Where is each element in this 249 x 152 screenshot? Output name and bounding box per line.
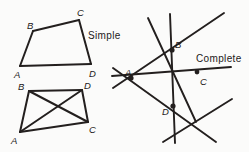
crossed-edge-dc <box>82 90 88 122</box>
complete-vertex-label-d: D <box>162 107 169 117</box>
simple-edge-bc <box>33 20 79 31</box>
crossed-vertex-label-d: D <box>84 81 91 91</box>
crossed-quadrilateral-shape <box>20 90 88 132</box>
complete-node-c <box>195 70 200 75</box>
complete-vertex-label-a: A <box>125 68 132 78</box>
simple-vertex-label-a: A <box>14 70 21 80</box>
crossed-vertex-label-a: A <box>11 136 18 146</box>
caption-simple: Simple <box>88 31 121 41</box>
simple-vertex-label-c: C <box>77 8 84 18</box>
geometry-figure: A B C D Simple A B C D A B C D Complete <box>0 0 249 152</box>
complete-node-b <box>169 47 174 52</box>
complete-line-vertical <box>170 14 175 143</box>
simple-vertex-label-b: B <box>27 21 34 31</box>
crossed-edge-ca <box>20 122 88 132</box>
crossed-vertex-label-c: C <box>89 125 96 135</box>
complete-vertex-label-c: C <box>200 77 207 87</box>
simple-edge-cd <box>79 20 91 64</box>
caption-complete: Complete <box>196 54 242 64</box>
simple-vertex-label-d: D <box>89 69 96 79</box>
crossed-edge-ad-diagonal <box>20 90 82 132</box>
simple-edge-da <box>20 64 91 66</box>
simple-edge-ab <box>20 31 33 66</box>
complete-quadrilateral-shape <box>112 13 232 143</box>
crossed-vertex-label-b: B <box>18 82 25 92</box>
crossed-edge-bd <box>29 90 82 91</box>
complete-vertex-label-b: B <box>175 40 182 50</box>
complete-node-d <box>170 103 175 108</box>
